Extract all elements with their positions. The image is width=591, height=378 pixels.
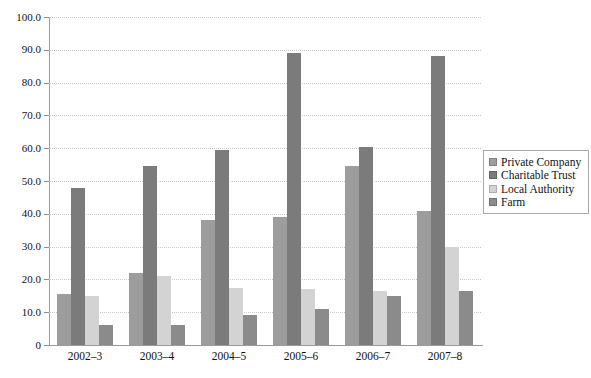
legend-item-label: Charitable Trust <box>501 169 575 181</box>
bar <box>215 150 229 345</box>
bar <box>359 147 373 345</box>
bar-group <box>193 17 265 345</box>
bar <box>129 273 143 345</box>
bar-group <box>121 17 193 345</box>
y-tick-label: 40.0 <box>0 208 41 219</box>
x-axis-line <box>49 345 483 346</box>
x-tick-label: 2006–7 <box>337 350 409 363</box>
x-tick-label: 2003–4 <box>121 350 193 363</box>
bar <box>345 166 359 345</box>
bar <box>273 217 287 345</box>
bar <box>459 291 473 345</box>
bar <box>243 315 257 345</box>
bar <box>171 325 185 345</box>
bar-group <box>265 17 337 345</box>
bar <box>315 309 329 345</box>
bar <box>157 276 171 345</box>
bar <box>417 211 431 345</box>
bar-chart: 010.020.030.040.050.060.070.080.090.0100… <box>0 0 591 378</box>
x-tick-label: 2007–8 <box>409 350 481 363</box>
y-tick-label: 0 <box>0 340 41 351</box>
bar-group <box>337 17 409 345</box>
legend-item-label: Farm <box>501 196 525 208</box>
legend-swatch-icon <box>489 158 497 166</box>
legend-swatch-icon <box>489 171 497 179</box>
bar <box>71 188 85 345</box>
bar <box>373 291 387 345</box>
bar <box>287 53 301 345</box>
bar <box>229 288 243 345</box>
bar-group <box>409 17 481 345</box>
y-tick-label: 80.0 <box>0 77 41 88</box>
legend-item-label: Private Company <box>501 156 581 168</box>
x-tick-label: 2002–3 <box>49 350 121 363</box>
y-tick-label: 50.0 <box>0 176 41 187</box>
bar <box>99 325 113 345</box>
y-tick-label: 70.0 <box>0 110 41 121</box>
bar <box>85 296 99 345</box>
x-tick-label: 2005–6 <box>265 350 337 363</box>
legend-swatch-icon <box>489 198 497 206</box>
x-tick-label: 2004–5 <box>193 350 265 363</box>
legend-item-label: Local Authority <box>501 183 574 195</box>
y-tick-label: 60.0 <box>0 143 41 154</box>
legend-item[interactable]: Private Company <box>489 155 584 168</box>
y-tick <box>44 345 49 346</box>
bar <box>57 294 71 345</box>
y-tick-label: 20.0 <box>0 274 41 285</box>
legend-item[interactable]: Charitable Trust <box>489 169 584 182</box>
bar-group <box>49 17 121 345</box>
y-tick-label: 90.0 <box>0 44 41 55</box>
bar <box>431 56 445 345</box>
legend-item[interactable]: Local Authority <box>489 182 584 195</box>
bar <box>387 296 401 345</box>
legend-swatch-icon <box>489 185 497 193</box>
y-tick-label: 100.0 <box>0 12 41 23</box>
y-tick-label: 10.0 <box>0 307 41 318</box>
legend-item[interactable]: Farm <box>489 196 584 209</box>
bar <box>201 220 215 345</box>
y-tick-label: 30.0 <box>0 241 41 252</box>
bar <box>301 289 315 345</box>
bar <box>445 247 459 345</box>
chart-legend: Private CompanyCharitable TrustLocal Aut… <box>483 150 589 214</box>
plot-area <box>49 17 481 345</box>
bar <box>143 166 157 345</box>
